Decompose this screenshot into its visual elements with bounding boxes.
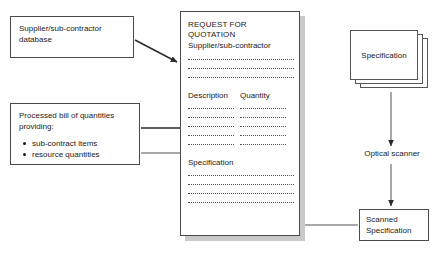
rfq-description-line	[188, 117, 234, 118]
rfq-description-line	[188, 135, 234, 136]
rfq-specification-line	[188, 175, 294, 176]
supplier-database-box: Supplier/sub-contractor database	[10, 16, 134, 58]
rfq-supplier-line	[188, 77, 294, 78]
optical-scanner-label: Optical scanner	[347, 149, 437, 158]
rfq-document: REQUEST FOR QUOTATION Supplier/sub-contr…	[180, 11, 300, 236]
rfq-specification-header: Specification	[188, 158, 292, 167]
rfq-specification-line	[188, 202, 294, 203]
processed-bill-box: Processed bill of quantities providing: …	[10, 103, 140, 165]
processed-bill-label: Processed bill of quantities providing:	[19, 111, 131, 133]
supplier-database-label: Supplier/sub-contractor database	[19, 24, 125, 46]
rfq-quantity-line	[240, 144, 286, 145]
rfq-supplier-line	[188, 68, 294, 69]
rfq-description-line	[188, 108, 234, 109]
rfq-specification-line	[188, 193, 294, 194]
arrow-supplier-db-to-rfq	[135, 40, 177, 62]
rfq-column-header-description: Description	[188, 91, 240, 100]
diagram-canvas: Supplier/sub-contractor database Process…	[0, 0, 443, 260]
scanned-specification-box: Scanned Specification	[359, 209, 429, 241]
specification-card-front: Specification	[350, 30, 418, 80]
rfq-quantity-line	[240, 126, 286, 127]
rfq-supplier-line	[188, 59, 294, 60]
list-item: sub-contract items	[32, 138, 131, 150]
rfq-description-column: Description	[188, 91, 240, 145]
rfq-quantity-column: Quantity	[240, 91, 292, 145]
rfq-quantity-line	[240, 135, 286, 136]
rfq-quantity-line	[240, 117, 286, 118]
rfq-quantity-line	[240, 108, 286, 109]
rfq-subtitle: Supplier/sub-contractor	[188, 41, 292, 51]
list-item: resource quantities	[32, 149, 131, 161]
rfq-description-line	[188, 126, 234, 127]
scanned-specification-label: Scanned Specification	[366, 215, 422, 237]
processed-bill-item-list: sub-contract items resource quantities	[19, 138, 131, 161]
rfq-title: REQUEST FOR QUOTATION	[188, 20, 292, 41]
rfq-column-header-quantity: Quantity	[240, 91, 292, 100]
rfq-columns: Description Quantity	[188, 91, 292, 145]
rfq-specification-line	[188, 184, 294, 185]
specification-card-label: Specification	[351, 51, 417, 60]
rfq-description-line	[188, 144, 234, 145]
